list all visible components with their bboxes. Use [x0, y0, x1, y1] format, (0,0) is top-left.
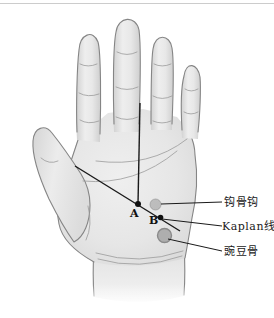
index-finger-shape [77, 35, 101, 142]
hand-illustration [0, 0, 274, 318]
callout-label-pisiform: 豌豆骨 [224, 245, 259, 258]
point-b-label: B [149, 215, 158, 226]
point-b-dot [158, 215, 164, 221]
middle-finger-shape [113, 19, 140, 132]
ring-finger-shape [151, 37, 173, 130]
hamate-hook-marker [150, 199, 161, 210]
hand-shape-group [33, 19, 200, 310]
callout-label-hamate-hook: 钩骨钩 [224, 196, 259, 209]
wrist-fade [84, 284, 192, 310]
point-a-label: A [130, 208, 139, 219]
pisiform-marker [158, 229, 172, 243]
figure-canvas: A B 钩骨钩 Kaplan线 豌豆骨 [0, 0, 274, 318]
callout-label-kaplan-line: Kaplan线 [222, 220, 274, 233]
